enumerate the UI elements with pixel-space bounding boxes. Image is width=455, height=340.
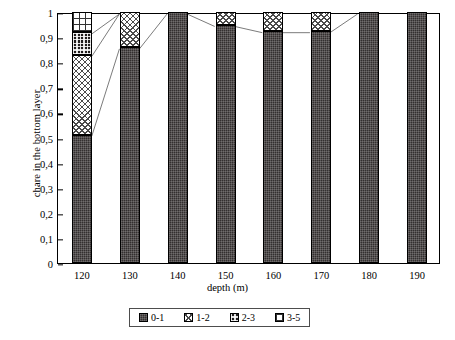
y-axis-tick-mark xyxy=(58,89,63,90)
bar-segment-0-to-1[interactable] xyxy=(120,47,140,263)
connector-line xyxy=(235,26,263,32)
legend-swatch-icon xyxy=(139,313,148,322)
x-axis-tick-label: 160 xyxy=(266,270,282,281)
stacked-bar[interactable] xyxy=(311,12,331,263)
y-axis-tick-label: 0,5 xyxy=(40,134,58,145)
connector-line xyxy=(92,49,120,136)
stacked-bar[interactable] xyxy=(168,12,188,263)
legend-item-label: 1-2 xyxy=(196,313,209,323)
y-axis-tick-mark xyxy=(58,214,63,215)
chart-figure: chare in the bottom layer 00,10,20,30,40… xyxy=(0,0,455,340)
legend-item[interactable]: 0-1 xyxy=(139,313,164,323)
bar-segment-0-to-1[interactable] xyxy=(359,12,379,263)
y-axis-tick-mark xyxy=(58,64,63,65)
chart-legend: 0-11-22-33-5 xyxy=(129,308,310,327)
legend-swatch-icon xyxy=(184,313,193,322)
x-axis-tick-label: 150 xyxy=(218,270,234,281)
y-axis-tick-label: 0,3 xyxy=(40,184,58,195)
bar-segment-0-to-1[interactable] xyxy=(216,25,236,263)
y-axis-tick-label: 0,1 xyxy=(40,235,58,246)
bar-segment-3-to-5[interactable] xyxy=(72,12,92,32)
connector-line xyxy=(330,14,358,33)
legend-swatch-icon xyxy=(230,313,239,322)
legend-item-label: 3-5 xyxy=(287,313,300,323)
stacked-bar[interactable] xyxy=(216,12,236,263)
x-axis-tick-label: 140 xyxy=(170,270,186,281)
stacked-bar[interactable] xyxy=(72,12,92,263)
y-axis-tick-mark xyxy=(58,189,63,190)
bar-segment-0-to-1[interactable] xyxy=(311,31,331,263)
x-axis-tick-label: 130 xyxy=(122,270,138,281)
connector-line xyxy=(92,14,120,34)
segment-connector-lines xyxy=(58,14,439,263)
y-axis-tick-label: 0,8 xyxy=(40,59,58,70)
x-axis-tick-label: 170 xyxy=(313,270,329,281)
y-axis-tick-label: 0,7 xyxy=(40,84,58,95)
x-axis-label: depth (m) xyxy=(0,282,455,293)
y-axis-tick-mark xyxy=(58,239,63,240)
bar-segment-0-to-1[interactable] xyxy=(263,31,283,263)
bar-segment-1-to-2[interactable] xyxy=(311,12,331,31)
y-axis-tick-label: 1 xyxy=(48,9,58,20)
legend-swatch-icon xyxy=(275,313,284,322)
bar-segment-0-to-1[interactable] xyxy=(168,12,188,263)
y-axis-tick-label: 0,6 xyxy=(40,109,58,120)
y-axis-tick-mark xyxy=(58,38,63,39)
y-axis-tick-label: 0,9 xyxy=(40,34,58,45)
connector-line xyxy=(187,14,215,26)
y-axis-tick-label: 0,4 xyxy=(40,159,58,170)
stacked-bar[interactable] xyxy=(407,12,427,263)
legend-item[interactable]: 3-5 xyxy=(275,313,300,323)
connector-line xyxy=(139,14,167,49)
bar-segment-1-to-2[interactable] xyxy=(72,55,92,135)
legend-item[interactable]: 1-2 xyxy=(184,313,209,323)
connector-line xyxy=(92,14,120,56)
y-axis-tick-mark xyxy=(58,164,63,165)
y-axis-tick-mark xyxy=(58,264,63,265)
stacked-bar[interactable] xyxy=(359,12,379,263)
legend-item-label: 0-1 xyxy=(151,313,164,323)
y-axis-tick-mark xyxy=(58,114,63,115)
bar-segment-2-to-3[interactable] xyxy=(72,32,92,55)
stacked-bar[interactable] xyxy=(263,12,283,263)
plot-area: 00,10,20,30,40,50,60,70,80,9112013014015… xyxy=(57,13,440,264)
legend-item[interactable]: 2-3 xyxy=(230,313,255,323)
y-axis-tick-label: 0 xyxy=(48,260,58,271)
y-axis-tick-mark xyxy=(58,139,63,140)
bar-segment-0-to-1[interactable] xyxy=(72,135,92,263)
bar-segment-1-to-2[interactable] xyxy=(120,12,140,47)
x-axis-tick-label: 120 xyxy=(74,270,90,281)
x-axis-tick-label: 190 xyxy=(409,270,425,281)
bar-segment-0-to-1[interactable] xyxy=(407,12,427,263)
x-axis-tick-label: 180 xyxy=(361,270,377,281)
y-axis-tick-mark xyxy=(58,13,63,14)
legend-item-label: 2-3 xyxy=(242,313,255,323)
stacked-bar[interactable] xyxy=(120,12,140,263)
bar-segment-1-to-2[interactable] xyxy=(216,12,236,25)
bar-segment-1-to-2[interactable] xyxy=(263,12,283,31)
y-axis-tick-label: 0,2 xyxy=(40,210,58,221)
